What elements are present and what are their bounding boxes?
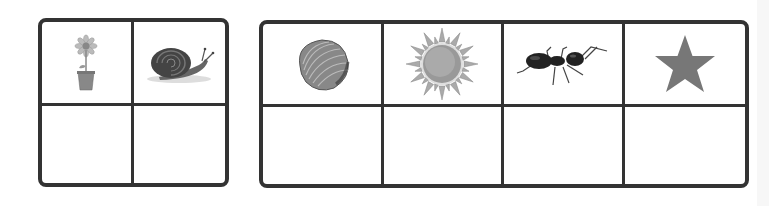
left-picture-grid: flower snail xyxy=(38,18,229,187)
cell-shell: shell xyxy=(263,24,384,107)
cell-sun: sun xyxy=(384,24,505,107)
empty-cell[interactable] xyxy=(134,106,226,183)
empty-cell[interactable] xyxy=(384,107,505,184)
empty-cell[interactable] xyxy=(42,106,134,183)
ant-icon xyxy=(515,39,611,89)
sun-icon xyxy=(404,26,480,102)
snail-icon xyxy=(141,41,217,85)
flower-pot-icon xyxy=(71,34,101,92)
cell-snail: snail xyxy=(134,22,226,106)
page-edge xyxy=(757,0,769,206)
star-icon xyxy=(653,33,717,95)
seashell-icon xyxy=(292,36,352,92)
empty-cell[interactable] xyxy=(625,107,746,184)
right-picture-grid: shell sun xyxy=(259,20,749,188)
cell-flower: flower xyxy=(42,22,134,106)
empty-cell[interactable] xyxy=(504,107,625,184)
empty-cell[interactable] xyxy=(263,107,384,184)
cell-ant: ant xyxy=(504,24,625,107)
cell-star: star xyxy=(625,24,746,107)
